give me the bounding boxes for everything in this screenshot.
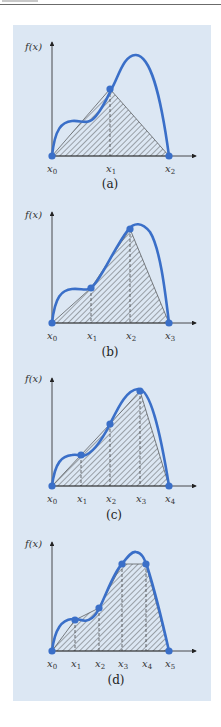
y-axis-label: f(x) (24, 41, 42, 52)
y-axis-label: f(x) (24, 373, 42, 384)
x-label: x2 (95, 658, 105, 671)
node-point (118, 560, 125, 567)
x-label: x0 (47, 493, 57, 506)
x-label: x3 (136, 493, 146, 506)
node-point (106, 85, 113, 92)
x-label: x1 (71, 658, 81, 671)
node-point (165, 647, 172, 654)
node-point (165, 152, 172, 159)
x-label: x4 (165, 493, 176, 506)
node-point (106, 420, 113, 427)
caption-b: (b) (101, 345, 118, 359)
x-label: x1 (77, 493, 87, 506)
x-label: x3 (165, 330, 175, 343)
x-label: x1 (106, 163, 116, 176)
node-point (87, 284, 94, 291)
x-label: x0 (47, 658, 57, 671)
node-point (48, 152, 55, 159)
subplot-c: f(x) x0 x1 x2 x3 x4 (c) (24, 373, 196, 522)
y-axis-label: f(x) (24, 538, 42, 549)
subplot-a: f(x) x0 x1 x2 (a) (24, 41, 196, 191)
x-label: x3 (118, 658, 128, 671)
node-point (136, 387, 143, 394)
x-label: x4 (142, 658, 153, 671)
newton-cotes-figure: f(x) x0 x1 x2 (a) f(x) x0 x1 x2 x3 (b) (0, 0, 221, 727)
x-label: x1 (87, 330, 97, 343)
x-label: x0 (47, 330, 57, 343)
node-point (71, 616, 78, 623)
subplot-b: f(x) x0 x1 x2 x3 (b) (24, 209, 196, 359)
x-label: x5 (165, 658, 175, 671)
x-label: x2 (106, 493, 116, 506)
caption-c: (c) (106, 508, 122, 522)
node-point (95, 604, 102, 611)
caption-d: (d) (107, 673, 124, 687)
node-point (142, 560, 149, 567)
x-label: x0 (47, 163, 57, 176)
subplot-d: f(x) x0 x1 x2 x3 x4 x5 (d) (24, 538, 196, 687)
hatched-area (52, 229, 169, 323)
x-label: x2 (126, 330, 136, 343)
x-label: x2 (165, 163, 175, 176)
y-axis-label: f(x) (24, 209, 42, 220)
node-point (48, 319, 55, 326)
node-point (165, 319, 172, 326)
node-point (126, 225, 133, 232)
node-point (48, 482, 55, 489)
node-point (165, 482, 172, 489)
node-point (77, 451, 84, 458)
caption-a: (a) (102, 177, 119, 191)
node-point (48, 647, 55, 654)
